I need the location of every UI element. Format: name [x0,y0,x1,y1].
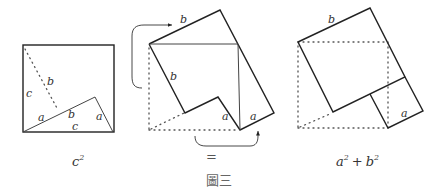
pythagorean-proof-diagram: c b a b a c c2 b b a a = 圖三 [0,0,446,192]
label-b-dotted: b [47,75,54,88]
label-b-left: b [170,70,177,83]
label-c-left: c [26,87,32,100]
figure-caption: 圖三 [206,173,232,188]
label-b-top: b [180,13,187,26]
square-b [298,8,405,112]
label-a-small: a [401,107,408,120]
caption-c-squared: c2 [72,153,84,169]
dotted-diagonal [300,113,332,127]
caption-a2-plus-b2: a2+b2 [336,153,379,169]
inner-vertical-line [238,44,240,130]
dotted-diagonal [151,113,184,129]
label-b-top: b [328,13,335,26]
curved-arrow-bottom [195,131,258,146]
curved-arrow-top [132,25,172,88]
label-a-left: a [38,111,45,124]
equals-sign: = [206,149,217,164]
label-a-right: a [96,110,103,123]
panel-rearrangement: b b a a = 圖三 [132,10,274,188]
label-c-base: c [72,120,78,133]
square-a [370,77,423,128]
label-a-right: a [250,110,257,123]
panel-a2-plus-b2: b a a2+b2 [298,8,423,169]
panel-c-squared: c b a b a c c2 [23,45,114,169]
label-a-notch: a [222,110,229,123]
